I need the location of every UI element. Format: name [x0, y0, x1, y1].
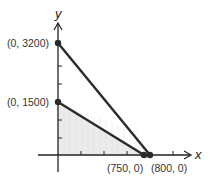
y-axis-label: y	[55, 7, 62, 20]
label-0-3200: (0, 3200)	[7, 38, 49, 49]
point-750-0	[141, 152, 147, 158]
point-0-1500	[55, 99, 61, 105]
label-0-1500: (0, 1500)	[7, 97, 49, 108]
point-800-0	[147, 152, 153, 158]
line-chart	[0, 0, 214, 188]
label-800-0: (800, 0)	[151, 163, 187, 174]
label-750-0: (750, 0)	[107, 163, 143, 174]
x-axis-label: x	[195, 148, 202, 161]
point-0-3200	[55, 40, 61, 46]
